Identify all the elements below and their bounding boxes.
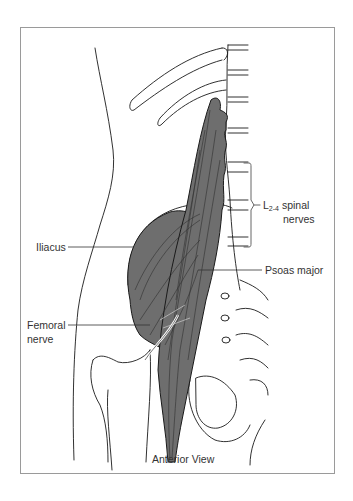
spinal-subscript: 2-4 <box>269 205 279 212</box>
anatomy-figure: Iliacus Femoral nerve Psoas major L2-4 s… <box>0 0 353 501</box>
label-femoral-nerve-line1: Femoral <box>27 318 66 332</box>
label-femoral-nerve-line2: nerve <box>27 332 53 346</box>
label-psoas-major: Psoas major <box>265 263 323 277</box>
label-iliacus: Iliacus <box>36 240 66 254</box>
spinal-word: spinal <box>279 199 309 211</box>
label-spinal-nerves-line2: nerves <box>283 212 315 226</box>
figure-caption: Anterior View <box>152 452 214 466</box>
